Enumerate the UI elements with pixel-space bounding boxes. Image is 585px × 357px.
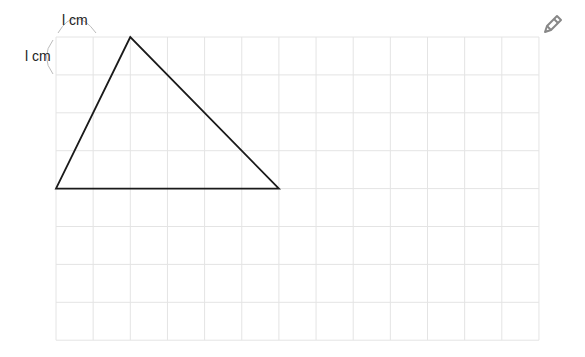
- left-unit-label: l cm: [25, 48, 51, 64]
- top-unit-label: l cm: [62, 12, 88, 28]
- grid-diagram: [0, 0, 585, 357]
- pencil-icon[interactable]: [541, 12, 565, 36]
